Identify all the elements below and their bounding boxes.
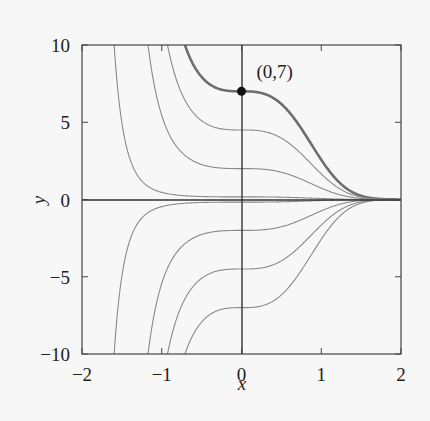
y-tick-label: 10 bbox=[51, 35, 70, 56]
y-tick-label: 5 bbox=[61, 112, 71, 133]
point-annotation: (0,7) bbox=[257, 61, 293, 83]
x-tick-label: 1 bbox=[317, 364, 327, 385]
x-tick-label: −2 bbox=[72, 364, 92, 385]
y-tick-label: 0 bbox=[61, 190, 71, 211]
x-tick-label: −1 bbox=[152, 364, 172, 385]
tick-labels: −2−1012−10−50510 bbox=[40, 35, 405, 385]
y-tick-label: −10 bbox=[40, 344, 70, 365]
y-axis-label: y bbox=[28, 195, 49, 206]
x-tick-label: 2 bbox=[396, 364, 406, 385]
y-tick-label: −5 bbox=[50, 267, 70, 288]
chart: −2−1012−10−50510 x y (0,7) bbox=[0, 0, 430, 421]
x-axis-label: x bbox=[237, 373, 247, 394]
highlight-point bbox=[237, 87, 246, 96]
